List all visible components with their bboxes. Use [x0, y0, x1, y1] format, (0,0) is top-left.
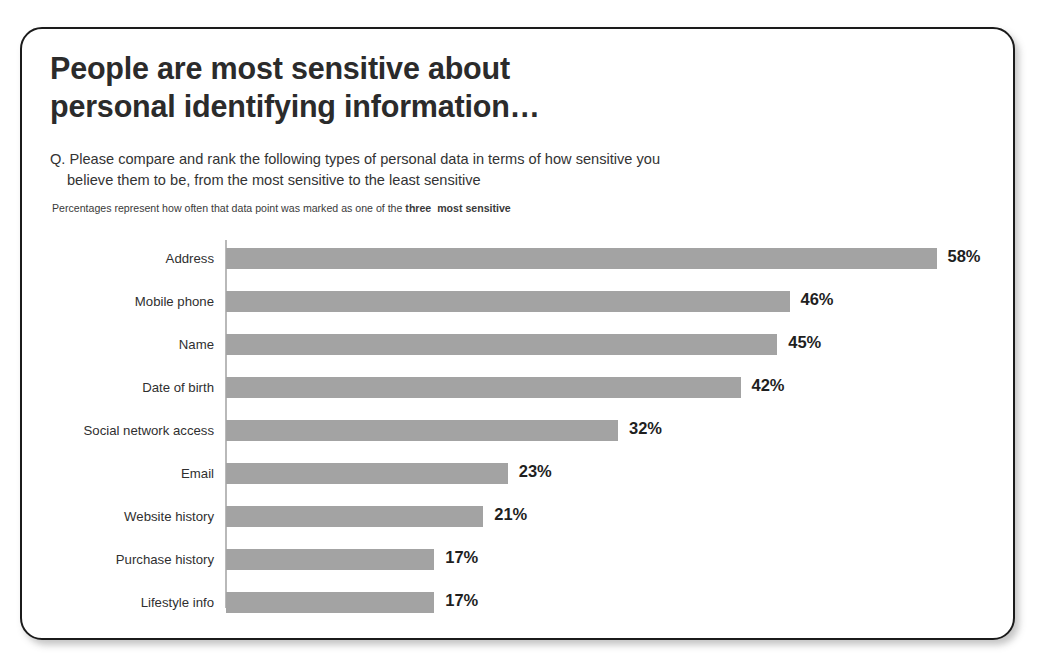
- bar-chart: Address58%Mobile phone46%Name45%Date of …: [22, 29, 1013, 638]
- bar-category-label: Purchase history: [22, 552, 214, 567]
- bar-row: Social network access32%: [22, 420, 1013, 463]
- bar-value-label: 21%: [494, 505, 527, 524]
- bar-category-label: Lifestyle info: [22, 595, 214, 610]
- bar-category-label: Social network access: [22, 423, 214, 438]
- bar-row: Lifestyle info17%: [22, 592, 1013, 635]
- bar-row: Mobile phone46%: [22, 291, 1013, 334]
- bar-value-label: 46%: [801, 290, 834, 309]
- bar-category-label: Name: [22, 337, 214, 352]
- slide-frame: People are most sensitive about personal…: [20, 27, 1015, 640]
- bar-value-label: 42%: [752, 376, 785, 395]
- bar-category-label: Mobile phone: [22, 294, 214, 309]
- bar-value-label: 17%: [445, 591, 478, 610]
- bar: [226, 549, 434, 570]
- slide-content: People are most sensitive about personal…: [22, 29, 1013, 638]
- bar-row: Purchase history17%: [22, 549, 1013, 592]
- bar-value-label: 23%: [519, 462, 552, 481]
- bar: [226, 248, 937, 269]
- bar: [226, 291, 790, 312]
- bar-value-label: 58%: [948, 247, 981, 266]
- bar: [226, 377, 741, 398]
- bar: [226, 420, 618, 441]
- bar-value-label: 45%: [788, 333, 821, 352]
- bar-row: Name45%: [22, 334, 1013, 377]
- bar-row: Email23%: [22, 463, 1013, 506]
- bar: [226, 334, 777, 355]
- bar: [226, 592, 434, 613]
- bar-value-label: 32%: [629, 419, 662, 438]
- bar-row: Address58%: [22, 248, 1013, 291]
- bar-row: Date of birth42%: [22, 377, 1013, 420]
- bar-category-label: Address: [22, 251, 214, 266]
- bar-category-label: Email: [22, 466, 214, 481]
- bar: [226, 463, 508, 484]
- bar-value-label: 17%: [445, 548, 478, 567]
- bar: [226, 506, 483, 527]
- bar-row: Website history21%: [22, 506, 1013, 549]
- bar-category-label: Date of birth: [22, 380, 214, 395]
- bar-category-label: Website history: [22, 509, 214, 524]
